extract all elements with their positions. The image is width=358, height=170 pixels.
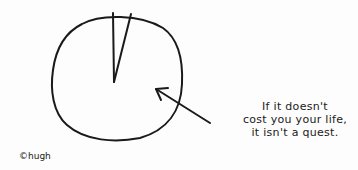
caption-line-3: it isn't a quest. — [232, 126, 358, 139]
pie-chart-drawing — [0, 0, 358, 170]
arrow-head-icon — [156, 88, 168, 100]
arrow-shaft — [156, 89, 210, 123]
pie-slice-edge-right — [114, 14, 131, 82]
annotation-caption: If it doesn't cost you your life, it isn… — [232, 100, 358, 139]
signature: ©hugh — [19, 151, 51, 161]
pie-slice-edge-left — [113, 13, 114, 82]
pie-circle — [52, 17, 182, 140]
caption-line-1: If it doesn't — [232, 100, 358, 113]
caption-line-2: cost you your life, — [232, 113, 358, 126]
